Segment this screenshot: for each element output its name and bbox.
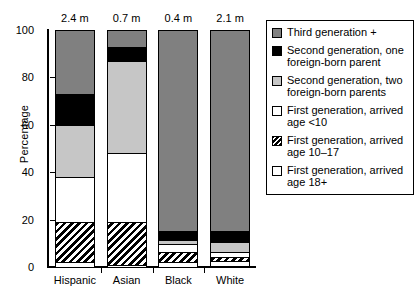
segment-second-generation-one-parent — [159, 231, 197, 239]
segment-first-generation-18-plus — [56, 262, 94, 267]
segment-third-generation-plus — [108, 30, 146, 47]
legend-item-second-generation-one-parent[interactable]: Second generation, one foreign-born pare… — [272, 44, 409, 69]
segment-first-generation-10-17 — [56, 222, 94, 262]
y-tick-label: 20 — [8, 215, 34, 225]
segment-first-generation-18-plus — [159, 262, 197, 267]
legend-label: First generation, arrived age 18+ — [287, 164, 403, 189]
segment-second-generation-two-parents — [211, 242, 249, 251]
legend-label: Second generation, two foreign-born pare… — [287, 74, 403, 99]
segment-second-generation-two-parents — [56, 125, 94, 177]
segment-second-generation-one-parent — [211, 231, 249, 242]
bar-hispanic — [55, 30, 95, 267]
legend-label: First generation, arrived age <10 — [287, 104, 403, 129]
segment-second-generation-one-parent — [108, 47, 146, 61]
segment-third-generation-plus — [211, 30, 249, 231]
legend-swatch-black-icon — [272, 46, 282, 56]
x-tick-mark — [101, 268, 102, 273]
segment-first-generation-under-10 — [108, 153, 146, 222]
x-tick-mark — [204, 268, 205, 273]
legend-item-first-generation-18-plus[interactable]: First generation, arrived age 18+ — [272, 164, 409, 189]
legend-label: Third generation + — [287, 26, 377, 39]
y-tick-label: 60 — [8, 120, 34, 130]
y-tick-label: 80 — [8, 72, 34, 82]
segment-first-generation-under-10 — [159, 244, 197, 251]
segment-first-generation-18-plus — [211, 261, 249, 266]
legend: Third generation +Second generation, one… — [266, 20, 414, 195]
segment-third-generation-plus — [159, 30, 197, 231]
bar-black — [158, 30, 198, 267]
legend-swatch-dark-gray-icon — [272, 28, 282, 38]
segment-first-generation-10-17 — [159, 252, 197, 263]
legend-label: Second generation, one foreign-born pare… — [287, 44, 404, 69]
bar-asian — [107, 30, 147, 267]
legend-label: First generation, arrived age 10–17 — [287, 134, 403, 159]
segment-first-generation-10-17 — [108, 222, 146, 265]
legend-swatch-light-gray-icon — [272, 76, 282, 86]
segment-first-generation-under-10 — [56, 177, 94, 222]
plot-area — [49, 30, 256, 267]
segment-second-generation-one-parent — [56, 94, 94, 125]
segment-third-generation-plus — [56, 30, 94, 94]
segment-second-generation-two-parents — [108, 61, 146, 153]
stacked-bar-chart: Percentage 020406080100 Third generation… — [0, 0, 420, 304]
legend-item-second-generation-two-parents[interactable]: Second generation, two foreign-born pare… — [272, 74, 409, 99]
bar-top-annotation: 2.1 m — [195, 12, 265, 24]
legend-swatch-white-icon — [272, 166, 282, 176]
legend-item-third-generation-plus[interactable]: Third generation + — [272, 26, 409, 39]
y-tick-label: 0 — [8, 262, 34, 272]
segment-first-generation-18-plus — [108, 265, 146, 267]
legend-swatch-white-icon — [272, 106, 282, 116]
legend-item-first-generation-10-17[interactable]: First generation, arrived age 10–17 — [272, 134, 409, 159]
x-tick-label-white: White — [195, 274, 265, 286]
bar-white — [210, 30, 250, 267]
y-tick-label: 100 — [8, 25, 34, 35]
y-tick-label: 40 — [8, 167, 34, 177]
x-tick-mark — [153, 268, 154, 273]
legend-item-first-generation-under-10[interactable]: First generation, arrived age <10 — [272, 104, 409, 129]
legend-swatch-hatched-icon — [272, 136, 282, 146]
